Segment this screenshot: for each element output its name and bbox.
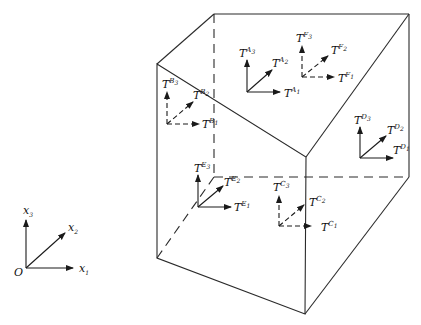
triad-E-vec-2 (198, 186, 223, 207)
triad-C-label-3: TC3 (273, 180, 290, 194)
triad-E-label-1: TE1 (234, 200, 250, 214)
triad-D: TD1 TD2 TD3 (354, 113, 410, 158)
global-axes: O x1 x2 x3 (14, 204, 89, 279)
cube-top-left-edge (157, 14, 214, 64)
triad-D-label-1: TD1 (393, 143, 410, 157)
triad-F-label-1: TF1 (338, 71, 354, 85)
triad-F-label-3: TF3 (296, 31, 312, 45)
triad-A-vec-2 (247, 70, 272, 92)
triad-D-label-2: TD2 (387, 123, 404, 137)
cube-front-face (157, 64, 306, 314)
triad-D-vec-2 (360, 136, 386, 158)
axis-x1-label: x1 (79, 262, 89, 276)
triad-F-vec-2 (302, 56, 328, 77)
triad-C-label-1: TC1 (321, 220, 338, 234)
triad-E-label-2: TE2 (224, 175, 240, 189)
origin-label: O (14, 266, 23, 279)
triad-C-label-2: TC2 (309, 195, 326, 209)
triad-D-label-3: TD3 (354, 113, 371, 127)
axis-x2-label: x2 (68, 221, 78, 235)
triad-B-label-3: TB3 (162, 77, 179, 91)
cube-hidden-bottom-left-edge (157, 177, 214, 258)
triad-A: TA1 TA2 TA3 (239, 46, 300, 100)
triad-C-vec-2 (279, 205, 304, 226)
axis-x3-label: x3 (23, 204, 33, 218)
triad-F-label-2: TF2 (331, 43, 347, 57)
axis-x2-arrow (26, 233, 65, 268)
triad-A-label-3: TA3 (239, 46, 255, 60)
triad-F: TF1 TF2 TF3 (296, 31, 354, 85)
triad-E: TE1 TE2 TE3 (194, 161, 250, 214)
cube-diagram: O x1 x2 x3 TA1 TA2 TA3 TF1 TF2 TF3 TB1 T… (0, 0, 421, 325)
triad-A-label-1: TA1 (284, 86, 300, 100)
triad-B-vec-2 (167, 102, 193, 124)
triad-E-label-3: TE3 (194, 161, 210, 175)
triad-A-label-2: TA2 (272, 56, 288, 70)
triad-B-label-2: TB2 (193, 88, 210, 102)
triad-B-label-1: TB1 (202, 117, 218, 131)
